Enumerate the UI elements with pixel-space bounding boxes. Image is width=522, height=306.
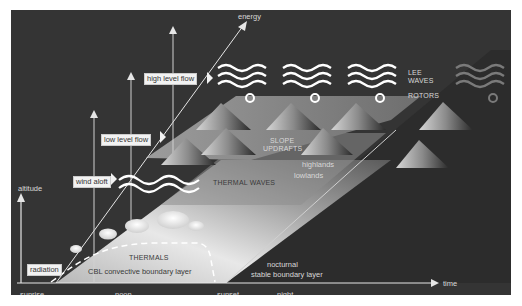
rotors-label: ROTORS — [408, 92, 439, 99]
lee-waves-label-1: LEE — [408, 69, 422, 76]
energy-axis-arrow-icon — [238, 21, 247, 31]
wind-aloft-tag: wind aloft — [73, 176, 111, 188]
thermals-label: THERMALS — [129, 254, 169, 261]
radiation-tag: radiation — [27, 264, 62, 276]
tick-sunset: sunset — [217, 291, 239, 295]
lowlands-label: lowlands — [294, 172, 323, 180]
high-level-flow-tag: high level flow — [144, 73, 197, 85]
nocturnal-label-2: stable boundary layer — [251, 271, 323, 279]
diagram-graphics — [11, 10, 511, 295]
energy-axis-label: energy — [238, 13, 261, 21]
diagram-panel: energy altitude time sunrise noon sunset… — [11, 10, 511, 295]
low-level-flow-tag: low level flow — [101, 134, 151, 146]
wind-aloft-up-arrow-icon — [90, 110, 98, 118]
lee-waves-label-2: WAVES — [408, 77, 434, 84]
tick-sunrise: sunrise — [20, 291, 44, 295]
altitude-axis-label: altitude — [18, 185, 42, 193]
tick-noon: noon — [115, 291, 132, 295]
highlands-label: highlands — [302, 161, 334, 169]
nocturnal-label-1: nocturnal — [267, 261, 298, 269]
slope-updrafts-label-2: UPDRAFTS — [263, 145, 302, 152]
high-flow-up-arrow-icon — [169, 26, 177, 34]
low-flow-up-arrow-icon — [127, 72, 135, 80]
tick-night: night — [277, 291, 293, 295]
slope-updrafts-label-1: SLOPE — [270, 137, 294, 144]
cbl-label: CBL convective boundary layer — [88, 268, 192, 276]
altitude-axis-arrow-icon — [17, 193, 25, 202]
thermal-waves-label: THERMAL WAVES — [213, 179, 275, 186]
time-axis-label: time — [443, 280, 457, 288]
